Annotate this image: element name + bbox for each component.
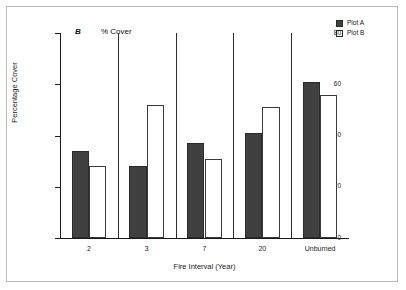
legend-label-plot-a: Plot A — [347, 20, 364, 27]
legend-item-plot-a: Plot A — [336, 20, 364, 27]
x-axis-line — [60, 238, 349, 239]
group-separator — [291, 33, 292, 238]
bar-plot-b-7 — [205, 159, 222, 238]
x-category-label-unburned: Unburned — [291, 245, 349, 252]
chart-figure: B % Cover Plot A Plot B Percentage Cover… — [0, 0, 406, 290]
bar-plot-a-3 — [129, 166, 146, 238]
group-separator — [233, 33, 234, 238]
x-category-label-3: 3 — [118, 245, 176, 252]
bar-plot-a-2 — [72, 151, 89, 238]
y-axis-title: Percentage Cover — [10, 33, 19, 153]
y-tick-0 — [55, 238, 60, 239]
bar-plot-b-2 — [89, 166, 106, 238]
x-axis-title: Fire Interval (Year) — [60, 262, 349, 271]
group-separator — [176, 33, 177, 238]
x-category-label-7: 7 — [176, 245, 234, 252]
bar-plot-a-20 — [245, 133, 262, 238]
bar-plot-b-3 — [147, 105, 164, 238]
y-tick-40 — [55, 136, 60, 137]
x-category-label-2: 2 — [60, 245, 118, 252]
plot-area: 020406080 23720Unburned — [60, 33, 349, 238]
y-tick-20 — [55, 187, 60, 188]
y-tick-label-60: 60 — [334, 81, 341, 88]
y-tick-label-80: 80 — [334, 30, 341, 37]
legend-swatch-filled-icon — [336, 20, 343, 27]
x-category-label-20: 20 — [233, 245, 291, 252]
group-separator — [118, 33, 119, 238]
y-axis-line — [60, 33, 61, 238]
bar-plot-a-unburned — [303, 82, 320, 238]
bar-plot-b-20 — [262, 107, 279, 238]
legend-label-plot-b: Plot B — [347, 30, 364, 37]
y-tick-label-0: 0 — [337, 235, 341, 242]
bar-plot-b-unburned — [320, 95, 337, 239]
y-tick-60 — [55, 84, 60, 85]
bar-plot-a-7 — [187, 143, 204, 238]
y-tick-80 — [55, 33, 60, 34]
